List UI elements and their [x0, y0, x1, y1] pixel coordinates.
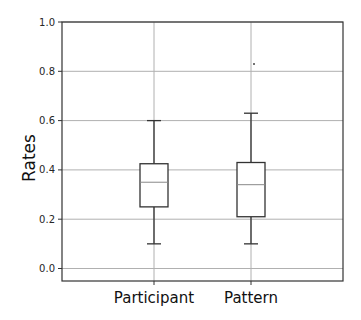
y-tick-label: 0.6 [39, 115, 55, 126]
y-tick-label: 0.4 [39, 164, 55, 175]
y-tick-label: 1.0 [39, 17, 55, 28]
y-axis-ticks: 0.00.20.40.60.81.0 [39, 17, 62, 275]
iqr-box [237, 163, 265, 217]
outlier-point [253, 63, 255, 65]
box-participant [140, 121, 168, 244]
x-category-label: Pattern [224, 289, 278, 307]
axes-frame [62, 22, 343, 281]
y-tick-label: 0.8 [39, 66, 55, 77]
iqr-box [140, 164, 168, 207]
axes-border [62, 22, 343, 281]
gridlines [62, 22, 343, 281]
y-tick-label: 0.2 [39, 214, 55, 225]
box-plot-chart: 0.00.20.40.60.81.0 ParticipantPattern Ra… [0, 0, 361, 320]
box-plots [140, 63, 265, 244]
x-axis-ticks: ParticipantPattern [114, 281, 278, 307]
y-tick-label: 0.0 [39, 263, 55, 274]
y-axis-title: Rates [19, 134, 39, 182]
x-category-label: Participant [114, 289, 194, 307]
